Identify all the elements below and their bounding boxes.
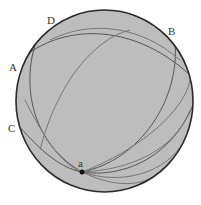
label-point-a: a [78, 158, 83, 169]
label-d: D [47, 15, 55, 26]
sphere-diagram: D B A C a [0, 0, 201, 205]
label-a-upper: A [9, 62, 17, 73]
label-b: B [168, 26, 175, 37]
point-a [80, 170, 85, 175]
label-c: C [8, 123, 15, 134]
